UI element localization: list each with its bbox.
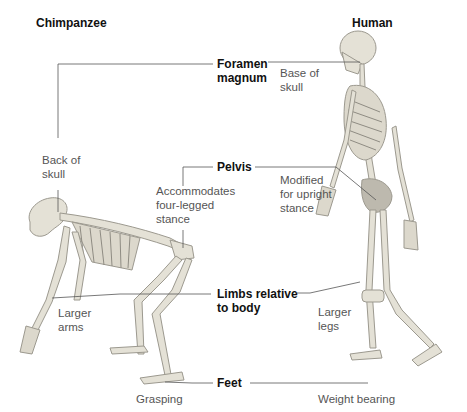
human-feet-note: Weight bearing [318, 392, 395, 406]
human-foramen-magnum-note: Base of skull [280, 66, 319, 94]
skeleton-comparison-diagram: Chimpanzee Human Foramen magnum Back of … [0, 0, 467, 412]
feature-foramen-magnum-label: Foramen magnum [217, 57, 268, 85]
human-limbs-note: Larger legs [318, 305, 351, 333]
chimpanzee-title: Chimpanzee [36, 16, 107, 30]
feature-pelvis-label: Pelvis [217, 160, 252, 174]
chimpanzee-pelvis-note: Accommodates four-legged stance [156, 184, 235, 226]
chimpanzee-limbs-note: Larger arms [58, 306, 91, 334]
human-title: Human [352, 16, 393, 30]
human-pelvis-note: Modified for upright stance [280, 173, 332, 215]
chimpanzee-foramen-magnum-note: Back of skull [42, 153, 80, 181]
chimpanzee-feet-note: Grasping [136, 392, 183, 406]
feature-feet-label: Feet [217, 376, 242, 390]
feature-limbs-label: Limbs relative to body [217, 287, 298, 315]
